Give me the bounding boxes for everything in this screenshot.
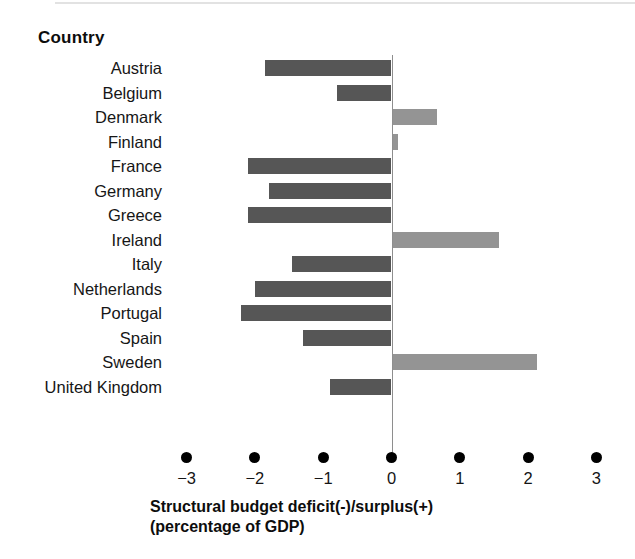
chart-row: Sweden bbox=[0, 351, 635, 376]
country-label: Denmark bbox=[0, 106, 162, 128]
chart-row: Spain bbox=[0, 327, 635, 352]
bar-spain bbox=[303, 330, 392, 346]
chart-row: Portugal bbox=[0, 302, 635, 327]
bar-ireland bbox=[393, 232, 499, 248]
bar-denmark bbox=[393, 109, 437, 125]
x-axis-title-line1: Structural budget deficit(-)/surplus(+) bbox=[150, 497, 620, 517]
tick-dot bbox=[386, 452, 397, 463]
country-label: Portugal bbox=[0, 302, 162, 324]
country-label: Netherlands bbox=[0, 278, 162, 300]
tick-dot bbox=[591, 452, 602, 463]
tick-label: 0 bbox=[372, 469, 412, 488]
bar-germany bbox=[269, 183, 392, 199]
country-column-header: Country bbox=[38, 28, 105, 48]
x-axis-title: Structural budget deficit(-)/surplus(+) … bbox=[150, 497, 620, 537]
chart-row: Austria bbox=[0, 57, 635, 82]
chart-row: Netherlands bbox=[0, 278, 635, 303]
bar-france bbox=[248, 158, 391, 174]
tick-label: −1 bbox=[303, 469, 343, 488]
bar-sweden bbox=[393, 354, 536, 370]
tick-dot bbox=[318, 452, 329, 463]
bar-italy bbox=[292, 256, 391, 272]
chart-row: Germany bbox=[0, 180, 635, 205]
bar-belgium bbox=[337, 85, 392, 101]
bar-united-kingdom bbox=[330, 379, 391, 395]
country-label: Germany bbox=[0, 180, 162, 202]
chart-figure: Country AustriaBelgiumDenmarkFinlandFran… bbox=[0, 0, 635, 559]
chart-row: Ireland bbox=[0, 229, 635, 254]
chart-row: Belgium bbox=[0, 82, 635, 107]
tick-label: 2 bbox=[508, 469, 548, 488]
country-label: Greece bbox=[0, 204, 162, 226]
tick-dot bbox=[249, 452, 260, 463]
bar-netherlands bbox=[255, 281, 392, 297]
chart-row: Finland bbox=[0, 131, 635, 156]
top-rule bbox=[55, 2, 635, 4]
chart-row: Denmark bbox=[0, 106, 635, 131]
bar-austria bbox=[265, 60, 391, 76]
tick-dot bbox=[454, 452, 465, 463]
country-label: Austria bbox=[0, 57, 162, 79]
chart-row: Greece bbox=[0, 204, 635, 229]
chart-row: Italy bbox=[0, 253, 635, 278]
country-label: United Kingdom bbox=[0, 376, 162, 398]
country-label: Italy bbox=[0, 253, 162, 275]
country-label: France bbox=[0, 155, 162, 177]
tick-label: 3 bbox=[576, 469, 616, 488]
tick-dot bbox=[181, 452, 192, 463]
bar-portugal bbox=[241, 305, 391, 321]
tick-label: −2 bbox=[235, 469, 275, 488]
tick-label: 1 bbox=[440, 469, 480, 488]
tick-label: −3 bbox=[167, 469, 207, 488]
chart-row: France bbox=[0, 155, 635, 180]
country-label: Spain bbox=[0, 327, 162, 349]
chart-row: United Kingdom bbox=[0, 376, 635, 401]
tick-dot bbox=[523, 452, 534, 463]
plot-area: AustriaBelgiumDenmarkFinlandFranceGerman… bbox=[0, 55, 635, 455]
country-label: Finland bbox=[0, 131, 162, 153]
x-axis-title-line2: (percentage of GDP) bbox=[150, 517, 620, 537]
country-label: Belgium bbox=[0, 82, 162, 104]
country-label: Ireland bbox=[0, 229, 162, 251]
bar-greece bbox=[248, 207, 391, 223]
country-label: Sweden bbox=[0, 351, 162, 373]
bar-finland bbox=[393, 134, 398, 150]
